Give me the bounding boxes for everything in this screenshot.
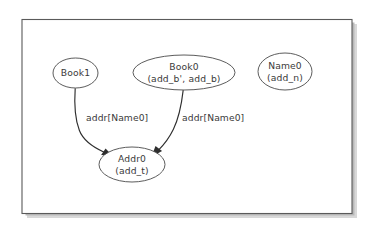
node-name0[interactable]: Name0 (add_n) [258,53,312,90]
node-book0[interactable]: Book0 (add_b', add_b) [133,55,235,90]
node-name0-label-line1: Name0 [268,60,302,71]
edge-label-book0-addr0: addr[Name0] [182,112,244,123]
node-book1-label-line1: Book1 [61,67,90,78]
node-addr0[interactable]: Addr0 (add_t) [99,147,165,182]
node-name0-label-line2: (add_n) [267,72,303,83]
edge-label-book1-addr0: addr[Name0] [86,112,148,123]
diagram-canvas: addr[Name0] addr[Name0] Book1 Book0 (add… [0,0,374,233]
node-book0-label-line1: Book0 [169,61,198,72]
node-addr0-label-line1: Addr0 [118,153,146,164]
node-book0-label-line2: (add_b', add_b) [147,73,220,84]
node-addr0-label-line2: (add_t) [115,165,149,176]
instance-diagram: addr[Name0] addr[Name0] Book1 Book0 (add… [0,0,374,233]
node-book1[interactable]: Book1 [53,58,98,88]
